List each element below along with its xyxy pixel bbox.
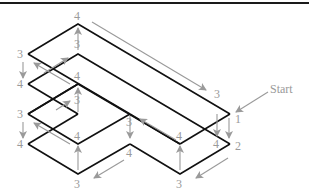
arrow-left-lower [34,123,70,144]
arrow-left-upper [34,63,70,84]
label-right-1: 1 [235,112,241,126]
label-mid-lower-4: 4 [74,129,80,143]
label-center-3: 3 [126,115,132,129]
isometric-path-diagram: Start 4 3 3 4 3 4 4 3 4 3 3 4 3 1 4 2 4 … [0,0,309,196]
label-left-1: 3 [17,47,23,61]
start-label: Start [270,82,293,96]
label-mid-upper-3: 3 [74,93,80,107]
label-left-2: 4 [17,77,23,91]
label-top-apex-outer: 4 [74,9,80,23]
path-arrows [23,22,268,178]
arrow-top-long [92,22,206,90]
label-right-4: 4 [213,137,219,151]
label-right-top-3: 3 [214,87,220,101]
label-mid-upper-4: 4 [74,69,80,83]
label-inner-right-4: 4 [176,129,182,143]
edge-inner-top [28,54,230,144]
label-top-apex-inner: 3 [74,37,80,51]
arrow-start [236,92,268,112]
edge-outer-top [28,24,230,114]
arrow-left-mid [140,119,176,140]
label-left-3: 3 [17,107,23,121]
label-right-2: 2 [235,139,241,153]
label-left-4: 4 [17,137,23,151]
label-center-4: 4 [126,146,132,160]
label-bottom-right-3: 3 [176,177,182,191]
label-bottom-left-3: 3 [74,177,80,191]
